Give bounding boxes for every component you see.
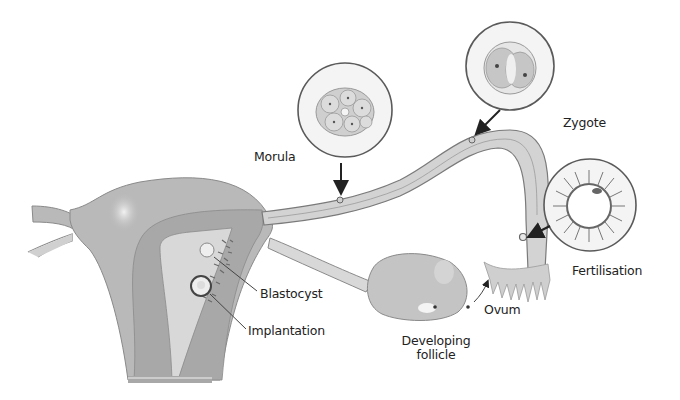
leader-lines xyxy=(0,0,680,400)
